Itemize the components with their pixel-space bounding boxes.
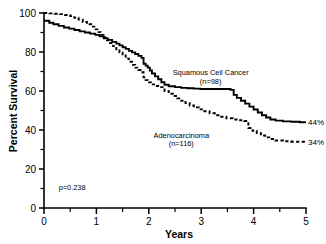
endpoint-label-adenocarcinoma: 34% [308, 138, 324, 147]
chart-svg: Percent Survival 020406080100 012345 Squ… [0, 0, 326, 244]
series-annotation-squamous: Squamous Cell Cancer (n=98) [173, 68, 250, 86]
survival-chart-figure: Percent Survival 020406080100 012345 Squ… [0, 0, 326, 244]
x-tick-label: 5 [303, 216, 309, 227]
x-tick-label: 0 [41, 216, 47, 227]
y-axis-ticks: 020406080100 [19, 8, 44, 214]
y-tick-label: 0 [30, 203, 36, 214]
y-axis-title: Percent Survival [7, 70, 19, 152]
series-annotation-adenocarcinoma: Adenocarcinoma (n=116) [154, 131, 210, 149]
endpoint-label-squamous: 44% [308, 118, 324, 127]
y-tick-label: 20 [25, 164, 37, 175]
x-tick-label: 2 [146, 216, 152, 227]
y-tick-label: 40 [25, 125, 37, 136]
x-tick-label: 1 [94, 216, 100, 227]
x-tick-label: 4 [251, 216, 257, 227]
x-tick-label: 3 [198, 216, 204, 227]
y-tick-label: 80 [25, 47, 37, 58]
series-n-adenocarcinoma: (n=116) [169, 139, 194, 148]
y-tick-label: 60 [25, 86, 37, 97]
x-axis-title: Years [165, 228, 193, 240]
p-value-annotation: p=0.238 [59, 183, 86, 192]
x-axis-ticks: 012345 [41, 208, 309, 227]
y-tick-label: 100 [19, 8, 36, 19]
series-n-squamous: (n=98) [200, 77, 222, 86]
